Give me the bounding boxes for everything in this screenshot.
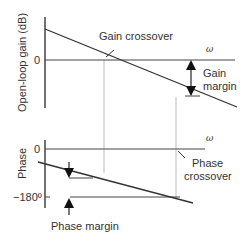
phase-axis-label: Phase: [16, 148, 28, 179]
gain-margin-label-1: Gain: [203, 67, 226, 79]
phase-margin-arrowhead-up: [64, 198, 74, 208]
bode-diagram: Open-loop gain (dB) 0 Gain crossover ω G…: [0, 0, 247, 245]
gain-omega-label: ω: [206, 44, 214, 54]
gain-axis-label: Open-loop gain (dB): [16, 13, 28, 112]
phase-margin-label: Phase margin: [51, 220, 119, 232]
gain-crossover-label: Gain crossover: [99, 30, 173, 42]
phase-omega-label: ω: [206, 133, 214, 143]
gain-margin-arrowhead-down: [186, 86, 196, 96]
gain-margin-arrowhead-up: [186, 60, 196, 70]
phase-crossover-label-2: crossover: [184, 170, 232, 182]
phase-crossover-label-1: Phase: [192, 157, 223, 169]
phase-minus180-label: −180º: [13, 191, 42, 203]
phase-margin-arrowhead-down: [64, 168, 74, 178]
phase-zero-tick: 0: [34, 143, 40, 155]
gain-margin-label-2: margin: [203, 80, 237, 92]
gain-zero-tick: 0: [34, 54, 40, 66]
phase-crossover-pointer: [178, 151, 185, 158]
